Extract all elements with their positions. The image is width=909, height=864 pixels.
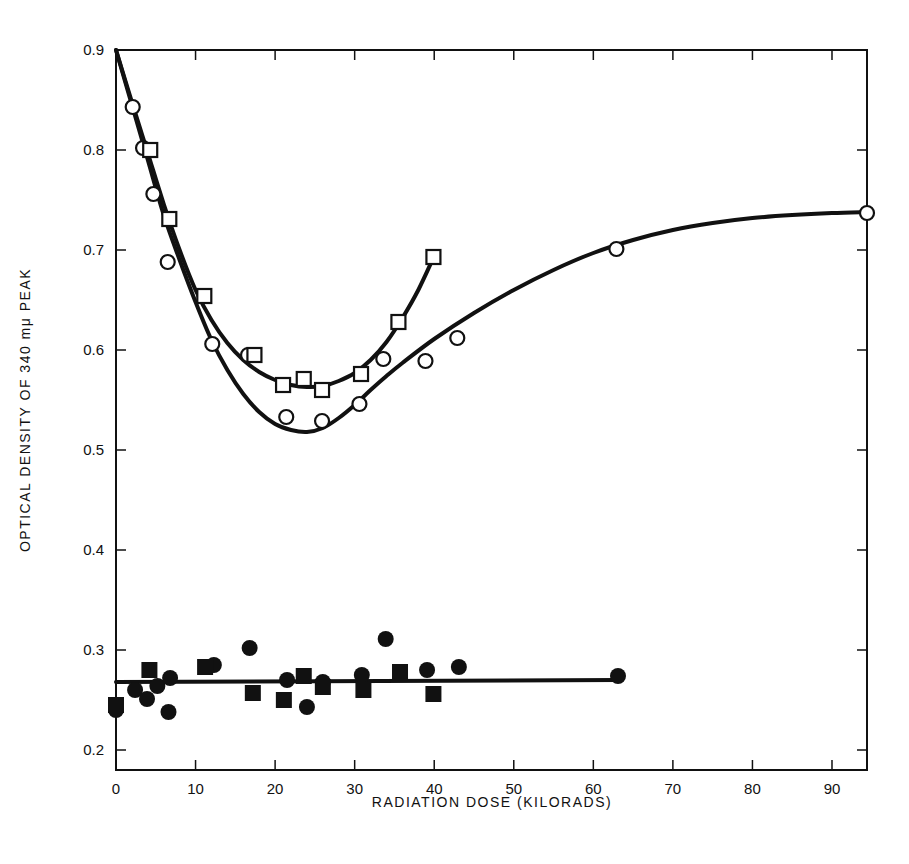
filled-square-marker [141,662,157,678]
fit-curve [116,50,867,432]
plot-border [116,50,867,770]
open-circle-marker [450,331,464,345]
y-tick-label: 0.4 [83,541,104,558]
open-square-marker [297,372,311,386]
filled-square-marker [108,697,124,713]
x-axis-title: RADIATION DOSE (KILORADS) [372,794,612,810]
x-tick-label: 80 [744,780,761,797]
x-tick-label: 10 [187,780,204,797]
x-tick-label: 0 [112,780,120,797]
open-square-marker [315,383,329,397]
open-square-marker [426,250,440,264]
open-circle-marker [126,100,140,114]
open-circle-marker [418,354,432,368]
y-tick-label: 0.2 [83,741,104,758]
x-tick-label: 70 [665,780,682,797]
filled-circle-marker [139,691,155,707]
filled-circle-marker [354,667,370,683]
filled-square-marker [355,682,371,698]
x-tick-label: 90 [824,780,841,797]
filled-square-marker [245,685,261,701]
open-circle-marker [146,187,160,201]
open-square-marker [247,348,261,362]
filled-circle-marker [161,704,177,720]
y-axis-title: OPTICAL DENSITY OF 340 mμ PEAK [17,268,33,552]
filled-circle-marker [162,670,178,686]
open-circle-marker [860,206,874,220]
y-tick-label: 0.9 [83,41,104,58]
open-square-marker [162,212,176,226]
fit-curves [116,50,867,682]
y-tick-label: 0.5 [83,441,104,458]
y-tick-label: 0.3 [83,641,104,658]
open-square-marker [197,289,211,303]
open-square-marker [354,367,368,381]
open-circle-marker [315,414,329,428]
filled-circle-marker [610,668,626,684]
chart-canvas: 0102030405060708090 0.20.30.40.50.60.70.… [0,0,909,864]
filled-circle-marker [419,662,435,678]
filled-square-marker [315,679,331,695]
y-tick-label: 0.7 [83,241,104,258]
y-tick-label: 0.8 [83,141,104,158]
filled-circle-marker [451,659,467,675]
x-axis-ticks: 0102030405060708090 [112,50,841,797]
filled-circle-marker [378,631,394,647]
open-circle-marker [161,255,175,269]
filled-circle-marker [299,699,315,715]
y-tick-label: 0.6 [83,341,104,358]
y-axis-ticks: 0.20.30.40.50.60.70.80.9 [83,41,867,758]
open-square-marker [143,143,157,157]
filled-square-marker [296,668,312,684]
open-circle-marker [376,352,390,366]
filled-square-marker [425,686,441,702]
filled-circle-marker [279,672,295,688]
filled-circle-marker [242,640,258,656]
filled-square-marker [392,664,408,680]
filled-square-marker [197,659,213,675]
x-tick-label: 30 [346,780,363,797]
filled-square-marker [276,692,292,708]
open-circle-marker [205,337,219,351]
plot-frame [116,50,867,770]
open-square-marker [391,315,405,329]
open-circle-marker [279,410,293,424]
open-circle-marker [352,397,366,411]
x-tick-label: 20 [267,780,284,797]
open-square-marker [276,378,290,392]
data-points [108,100,874,720]
open-circle-marker [609,242,623,256]
